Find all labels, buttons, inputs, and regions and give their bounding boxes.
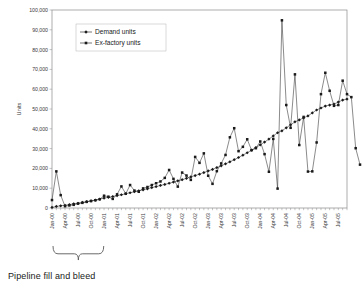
pipeline-annotation-caption: Pipeline fill and bleed — [8, 271, 95, 281]
data-point-marker — [155, 182, 158, 185]
data-point-marker — [94, 199, 97, 202]
data-point-marker — [263, 153, 266, 156]
data-point-marker — [341, 79, 344, 82]
data-point-marker — [51, 199, 54, 202]
data-point-marker — [237, 150, 240, 153]
chart-figure: 010,00020,00030,00040,00050,00060,00070,… — [0, 0, 363, 293]
data-point-marker — [111, 198, 114, 201]
data-point-marker — [298, 144, 301, 147]
x-tick-label: Oct-04 — [296, 213, 302, 229]
data-point-marker — [350, 96, 353, 99]
data-point-marker — [281, 19, 284, 22]
x-tick-label: Jul-05 — [335, 213, 341, 227]
y-tick-label: 40,000 — [32, 126, 48, 132]
data-point-marker — [168, 169, 171, 172]
data-point-marker — [311, 170, 314, 173]
y-tick-label: 100,000 — [29, 7, 48, 13]
data-point-marker — [107, 195, 110, 198]
data-point-marker — [259, 140, 262, 143]
data-point-marker — [185, 174, 188, 177]
data-point-marker — [125, 192, 128, 195]
x-tick-label: Jan-00 — [49, 213, 55, 229]
data-point-marker — [242, 146, 245, 149]
data-point-marker — [328, 90, 331, 93]
y-tick-label: 0 — [45, 205, 48, 211]
data-point-marker — [229, 136, 232, 139]
data-point-marker — [324, 72, 327, 75]
x-tick-label: Apr-04 — [270, 213, 276, 229]
data-point-marker — [103, 194, 106, 197]
x-tick-label: Jul-02 — [179, 213, 185, 227]
y-axis-label: Units — [16, 102, 22, 115]
data-point-marker — [307, 170, 310, 173]
data-point-marker — [224, 154, 227, 157]
data-point-marker — [207, 174, 210, 177]
legend-label-exfactory: Ex-factory units — [95, 39, 141, 47]
x-tick-label: Jan-01 — [101, 213, 107, 229]
data-point-marker — [346, 93, 349, 96]
y-tick-label: 50,000 — [32, 106, 48, 112]
x-tick-label: Apr-02 — [166, 213, 172, 229]
data-point-marker — [194, 156, 197, 159]
data-point-marker — [77, 202, 80, 205]
data-point-marker — [68, 204, 71, 207]
data-point-marker — [59, 194, 62, 197]
data-point-marker — [172, 178, 175, 181]
pipeline-fill-brace — [53, 246, 104, 260]
x-tick-label: Jul-04 — [283, 213, 289, 227]
data-point-marker — [302, 116, 305, 119]
y-tick-label: 70,000 — [32, 66, 48, 72]
data-point-marker — [272, 138, 275, 141]
data-point-marker — [255, 147, 258, 150]
x-tick-label: Jan-03 — [205, 213, 211, 229]
data-point-marker — [315, 141, 318, 144]
data-point-marker — [142, 187, 145, 190]
line-chart-svg: 010,00020,00030,00040,00050,00060,00070,… — [0, 0, 363, 293]
data-point-marker — [85, 201, 88, 204]
data-point-marker — [333, 105, 336, 108]
y-tick-label: 60,000 — [32, 86, 48, 92]
data-point-marker — [198, 162, 201, 165]
x-tick-label: Jul-00 — [75, 213, 81, 227]
y-tick-label: 80,000 — [32, 47, 48, 53]
data-point-marker — [159, 180, 162, 183]
data-point-marker — [181, 171, 184, 174]
data-point-marker — [359, 163, 362, 166]
data-point-marker — [90, 200, 93, 203]
data-point-marker — [133, 189, 136, 192]
data-point-marker — [246, 138, 249, 141]
x-tick-label: Oct-01 — [140, 213, 146, 229]
data-point-marker — [98, 198, 101, 201]
data-point-marker — [276, 187, 279, 190]
legend-label-demand: Demand units — [95, 28, 136, 35]
x-tick-label: Oct-00 — [88, 213, 94, 229]
x-tick-label: Apr-05 — [322, 213, 328, 229]
y-tick-label: 20,000 — [32, 165, 48, 171]
data-point-marker — [64, 205, 66, 208]
y-tick-label: 90,000 — [32, 27, 48, 33]
data-point-marker — [177, 185, 180, 188]
data-point-marker — [211, 183, 214, 186]
data-point-marker — [289, 127, 292, 130]
data-point-marker — [268, 171, 271, 174]
x-tick-label: Apr-00 — [62, 213, 68, 229]
data-point-marker — [337, 104, 340, 107]
data-point-marker — [120, 185, 123, 188]
data-point-marker — [129, 184, 132, 187]
x-tick-label: Jul-01 — [127, 213, 133, 227]
data-point-marker — [294, 73, 297, 76]
legend-marker-1 — [85, 42, 88, 45]
x-tick-label: Oct-02 — [192, 213, 198, 229]
data-point-marker — [203, 152, 206, 155]
x-tick-label: Jan-04 — [257, 213, 263, 229]
data-point-marker — [81, 202, 84, 205]
data-point-marker — [138, 191, 141, 194]
data-point-marker — [220, 162, 223, 165]
data-point-marker — [190, 179, 193, 182]
data-point-marker — [233, 127, 236, 129]
x-tick-label: Apr-01 — [114, 213, 120, 229]
data-point-marker — [250, 149, 253, 152]
data-point-marker — [146, 186, 149, 189]
x-tick-label: Jul-03 — [231, 213, 237, 227]
data-point-marker — [320, 93, 323, 96]
